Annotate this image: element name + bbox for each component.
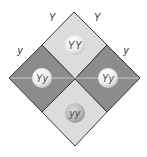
genotype-left: Yy (36, 74, 49, 84)
parent-label-right: y (124, 46, 129, 56)
parent-label-top-left: Y (49, 13, 56, 23)
parent-label-top-right: Y (94, 13, 101, 23)
genotype-right: Yy (102, 74, 115, 84)
parent-label-left: y (18, 46, 23, 56)
genotype-top: YY (68, 41, 82, 51)
punnett-diamond (0, 0, 147, 157)
genotype-bottom: yy (70, 109, 81, 119)
